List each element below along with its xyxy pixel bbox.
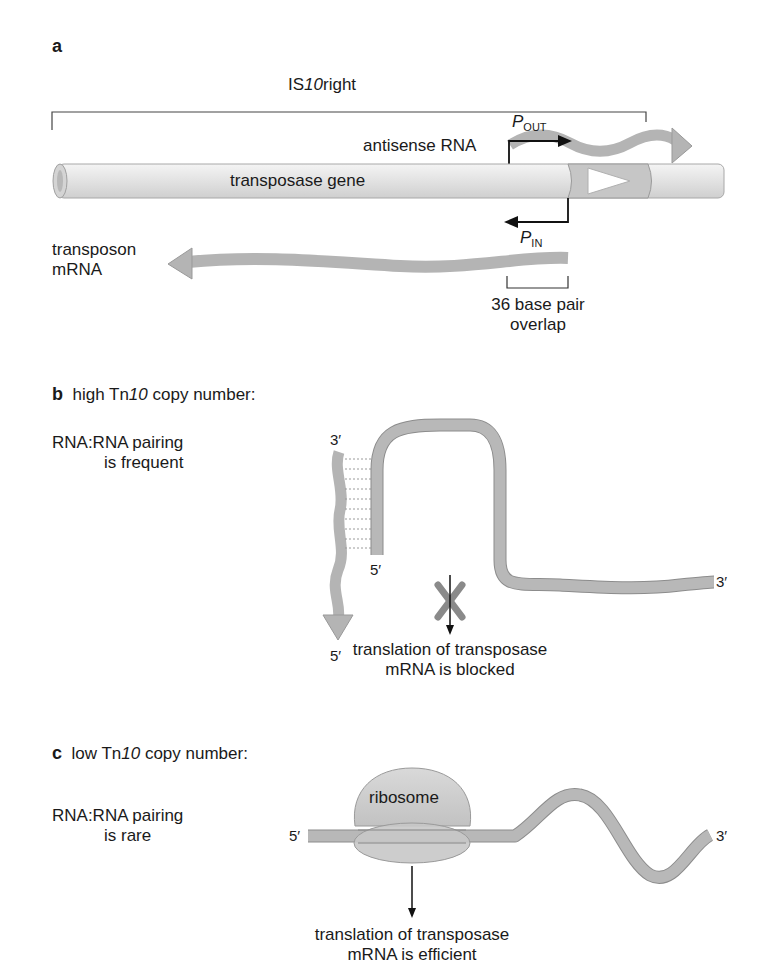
translation-blocked-label: translation of transposasemRNA is blocke… [300, 640, 600, 680]
mrna-5prime-label: 5′ [370, 560, 381, 580]
ribosome-label: ribosome [369, 788, 439, 808]
overlap-label: 36 base pairoverlap [478, 295, 598, 335]
promoter-out-label: POUT [512, 112, 547, 137]
promoter-in-arrow [504, 198, 568, 228]
is10-right-label: IS10right [288, 75, 356, 95]
antisense-3prime-label: 3′ [330, 430, 341, 450]
translation-arrow [408, 866, 416, 918]
transposon-mrna-label: transposonmRNA [52, 240, 136, 280]
transposase-gene-label: transposase gene [230, 171, 365, 191]
panel-b-pairing-label: RNA:RNA pairingis frequent [52, 433, 183, 473]
panel-a-letter: a [52, 36, 62, 56]
panel-c-3prime-label: 3′ [716, 826, 727, 846]
ribosome [354, 768, 471, 863]
transposon-mrna-arrow [168, 248, 568, 279]
is10-bracket [52, 112, 646, 130]
paired-antisense-rna [323, 452, 353, 640]
mrna-3prime-label: 3′ [716, 572, 727, 592]
transposase-gene-cylinder [53, 164, 724, 198]
panel-c-pairing-label: RNA:RNA pairingis rare [52, 806, 183, 846]
panel-c-title: c low Tn10 copy number: [52, 743, 248, 764]
antisense-rna-label: antisense RNA [363, 136, 476, 156]
panel-c-5prime-label: 5′ [289, 826, 300, 846]
base-pairing-lines [345, 459, 371, 548]
transposase-mrna-hairpin [377, 425, 714, 588]
translation-efficient-label: translation of transposasemRNA is effici… [262, 925, 562, 965]
promoter-in-label: PIN [520, 228, 542, 253]
panel-b-title: b high Tn10 copy number: [52, 384, 256, 405]
overlap-bracket [507, 276, 568, 288]
blocked-translation-icon [438, 575, 462, 635]
